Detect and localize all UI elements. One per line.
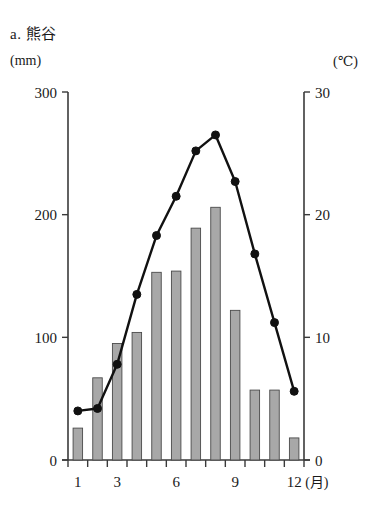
precipitation-bar xyxy=(152,272,162,460)
plot-area: 0100200300 0102030 136912(月) xyxy=(0,0,366,527)
precipitation-bar xyxy=(250,390,259,460)
right-axis-tick-label: 10 xyxy=(315,330,330,346)
right-axis: 0102030 xyxy=(304,85,330,469)
left-axis: 0100200300 xyxy=(35,85,69,469)
temperature-line xyxy=(78,135,294,411)
temperature-point xyxy=(251,250,259,258)
precipitation-bar xyxy=(230,310,240,460)
left-axis-tick-label: 200 xyxy=(35,207,58,223)
x-axis-tick-label: 6 xyxy=(172,474,180,490)
x-axis-tick-label: 12 xyxy=(287,474,302,490)
precipitation-bar xyxy=(289,438,299,460)
x-axis-tick-label: 9 xyxy=(231,474,239,490)
precipitation-bar xyxy=(171,271,181,460)
temperature-point xyxy=(133,290,141,298)
temperature-point xyxy=(271,319,279,327)
temperature-point xyxy=(94,404,102,412)
precipitation-bars xyxy=(73,207,299,460)
precipitation-bar xyxy=(211,207,221,460)
precipitation-bar xyxy=(191,228,201,460)
left-axis-tick-label: 300 xyxy=(35,85,58,101)
x-axis-tick-label: 1 xyxy=(74,474,82,490)
left-axis-tick-label: 0 xyxy=(50,453,58,469)
x-axis xyxy=(62,460,310,467)
right-axis-tick-label: 20 xyxy=(315,207,330,223)
precipitation-bar xyxy=(132,332,142,460)
left-axis-tick-label: 100 xyxy=(35,330,58,346)
precipitation-bar xyxy=(73,428,83,460)
x-axis-tick-labels: 136912(月) xyxy=(74,474,329,491)
x-axis-unit-label: (月) xyxy=(305,475,329,491)
temperature-point xyxy=(153,232,161,240)
temperature-point xyxy=(290,387,298,395)
temperature-point xyxy=(231,178,239,186)
x-axis-tick-label: 3 xyxy=(113,474,121,490)
temperature-point xyxy=(113,360,121,368)
temperature-point xyxy=(192,147,200,155)
temperature-point xyxy=(74,407,82,415)
temperature-point xyxy=(212,131,220,139)
climograph-chart: a. 熊谷 (mm) (℃) 0100200300 0102030 136912… xyxy=(0,0,366,527)
right-axis-tick-label: 30 xyxy=(315,85,330,101)
temperature-point xyxy=(172,192,180,200)
right-axis-tick-label: 0 xyxy=(315,453,323,469)
precipitation-bar xyxy=(270,390,280,460)
precipitation-bar xyxy=(93,378,103,460)
